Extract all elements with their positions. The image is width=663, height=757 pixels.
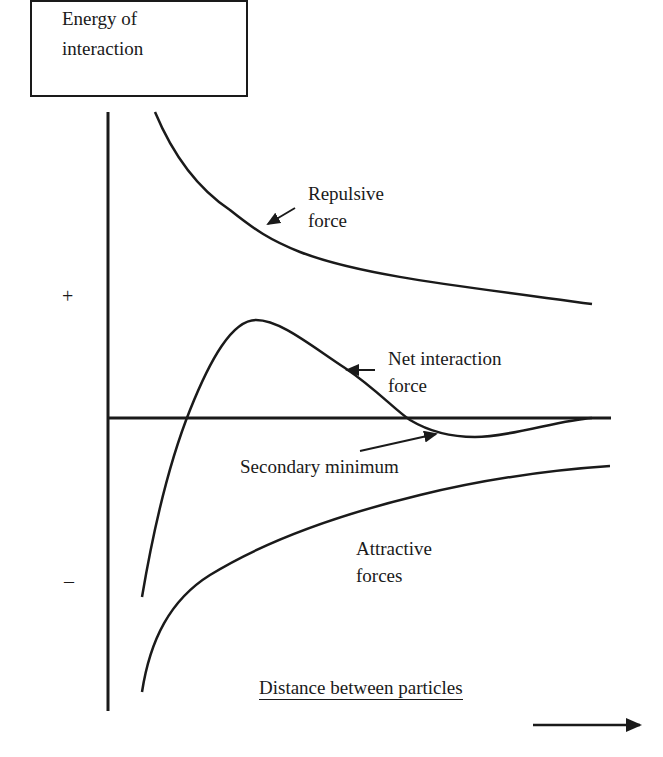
diagram-graphics — [0, 0, 663, 757]
net-label-line2: force — [388, 372, 501, 399]
repulsive-pointer-arrow-icon — [268, 208, 295, 224]
secondary-minimum-label: Secondary minimum — [240, 456, 399, 478]
attractive-label-line1: Attractive — [356, 535, 432, 562]
attractive-forces-label: Attractive forces — [356, 535, 432, 589]
repulsive-label-line1: Repulsive — [308, 180, 384, 207]
x-axis-title: Distance between particles — [259, 678, 463, 700]
secondary-minimum-pointer-arrow-icon — [360, 434, 436, 451]
net-label-line1: Net interaction — [388, 345, 501, 372]
y-axis-title: Energy of interaction — [62, 4, 143, 64]
y-axis-title-line1: Energy of — [62, 4, 143, 34]
net-interaction-force-label: Net interaction force — [388, 345, 501, 399]
positive-energy-marker: + — [62, 285, 73, 307]
negative-energy-marker: – — [64, 570, 74, 592]
energy-interaction-diagram: Energy of interaction + – Repulsive forc… — [0, 0, 663, 757]
y-axis-title-line2: interaction — [62, 34, 143, 64]
repulsive-label-line2: force — [308, 207, 384, 234]
attractive-label-line2: forces — [356, 562, 432, 589]
repulsive-force-label: Repulsive force — [308, 180, 384, 234]
